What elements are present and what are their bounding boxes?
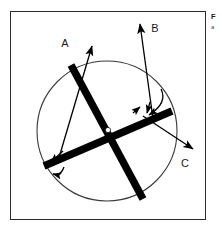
label-b: B [151, 22, 158, 34]
reaction-arrow-bar-right [147, 102, 150, 113]
pivot-gap [105, 127, 110, 132]
caption-subtitle: a [211, 24, 222, 31]
force-arrow-c [143, 116, 193, 149]
caption-title: F [211, 12, 222, 21]
label-a: A [61, 37, 69, 49]
figure-page: A B C F a [0, 0, 222, 236]
force-arrow-b [140, 24, 153, 119]
label-c: C [181, 157, 189, 169]
figure-frame: A B C [10, 11, 206, 220]
thick-bar-shallow [44, 111, 172, 166]
diagram-canvas: A B C [10, 11, 206, 220]
caption-block: F a [211, 12, 222, 52]
moment-arc-lower-left [53, 167, 64, 174]
reaction-arrow-bar-mid [133, 107, 140, 113]
